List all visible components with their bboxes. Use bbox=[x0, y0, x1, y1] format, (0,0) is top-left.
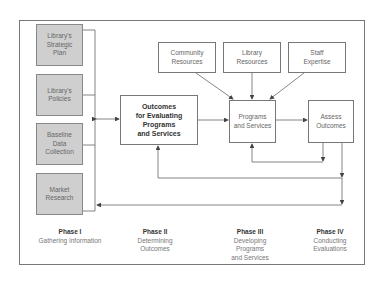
phase-2-title: Phase II bbox=[120, 228, 190, 237]
assess-outcomes-label: Assess Outcomes bbox=[314, 113, 348, 130]
input-baseline: Baseline Data Collection bbox=[36, 123, 83, 165]
input-strategic-plan: Library's Strategic Plan bbox=[36, 24, 83, 66]
staff-expertise-label: Staff Expertise bbox=[301, 49, 332, 66]
phase-3-desc: Developing Programs and Services bbox=[215, 237, 285, 263]
phase-4-desc: Conducting Evaluations bbox=[295, 237, 365, 254]
staff-expertise-box: Staff Expertise bbox=[288, 42, 346, 73]
input-market-research-label: Market Research bbox=[44, 186, 76, 203]
community-resources-label: Community Resources bbox=[169, 49, 206, 66]
input-market-research: Market Research bbox=[36, 173, 83, 215]
phase-2-desc: Determining Outcomes bbox=[120, 237, 190, 254]
input-strategic-plan-label: Library's Strategic Plan bbox=[45, 32, 75, 58]
phase-1-desc: Gathering Information bbox=[30, 237, 110, 246]
phase-1-title: Phase I bbox=[30, 228, 110, 237]
phase-2: Phase II Determining Outcomes bbox=[120, 228, 190, 254]
assess-outcomes-box: Assess Outcomes bbox=[308, 100, 354, 143]
community-resources-box: Community Resources bbox=[158, 42, 216, 73]
library-resources-label: Library Resources bbox=[234, 49, 269, 66]
phase-3: Phase III Developing Programs and Servic… bbox=[215, 228, 285, 262]
phase-4-title: Phase IV bbox=[295, 228, 365, 237]
phase-4: Phase IV Conducting Evaluations bbox=[295, 228, 365, 254]
programs-services-box: Programs and Services bbox=[229, 100, 276, 143]
input-policies: Library's Policies bbox=[36, 74, 83, 116]
phase-1: Phase I Gathering Information bbox=[30, 228, 110, 245]
input-policies-label: Library's Policies bbox=[45, 87, 73, 104]
input-baseline-label: Baseline Data Collection bbox=[43, 131, 76, 157]
programs-services-label: Programs and Services bbox=[232, 113, 274, 130]
phase-3-title: Phase III bbox=[215, 228, 285, 237]
outcomes-label: Outcomes for Evaluating Programs and Ser… bbox=[134, 102, 185, 138]
library-resources-box: Library Resources bbox=[223, 42, 281, 73]
outcomes-box: Outcomes for Evaluating Programs and Ser… bbox=[120, 95, 198, 145]
